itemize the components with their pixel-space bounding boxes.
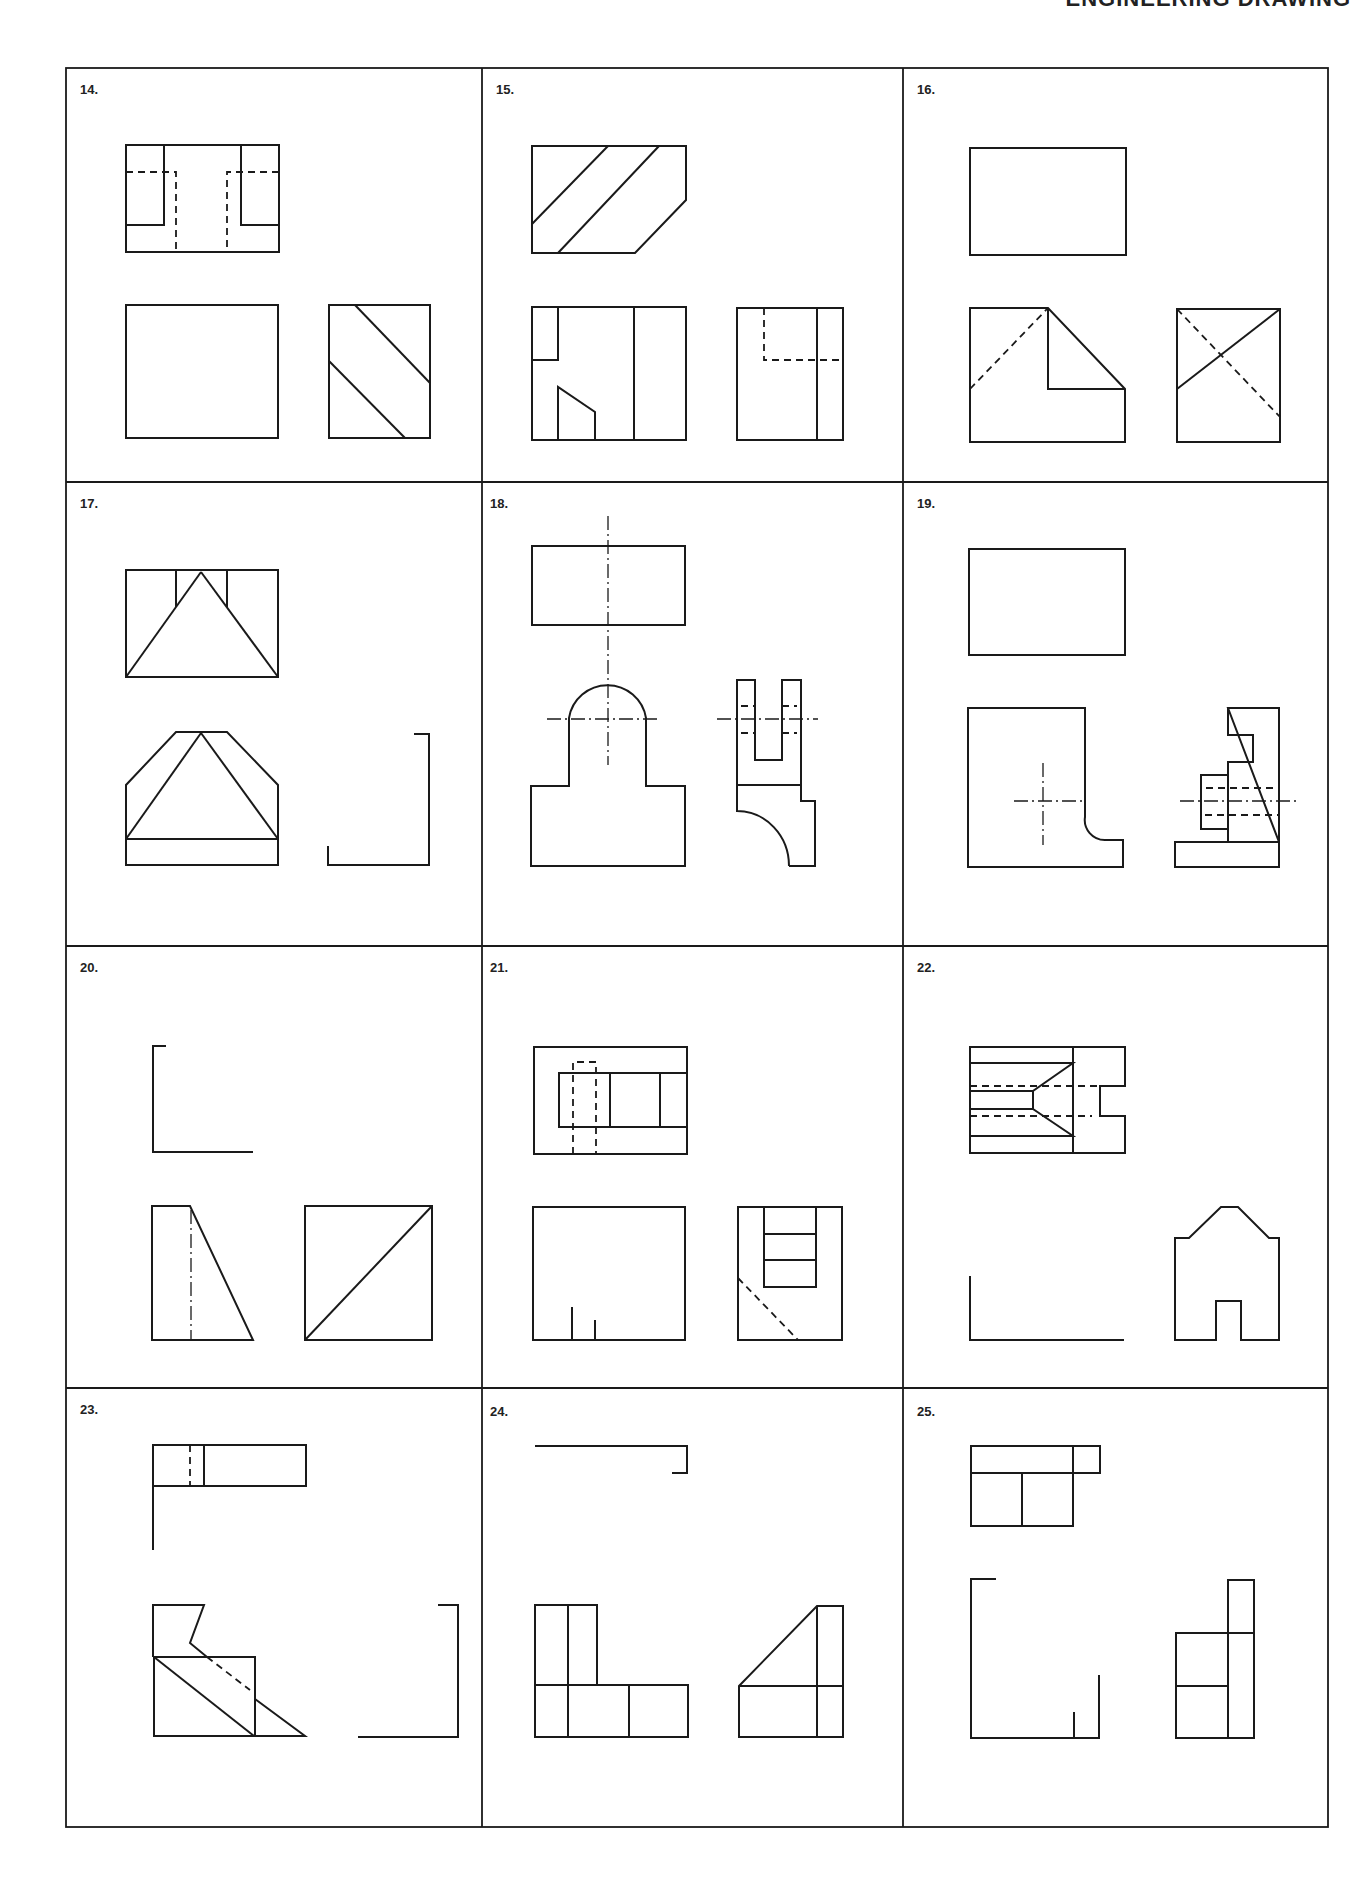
drawing-14 bbox=[126, 145, 430, 438]
drawing-25 bbox=[971, 1446, 1254, 1738]
drawing-24 bbox=[535, 1446, 843, 1737]
drawing-22 bbox=[970, 1047, 1279, 1340]
drawing-15 bbox=[532, 146, 843, 440]
drawing-17 bbox=[126, 570, 429, 865]
drawing-23 bbox=[153, 1445, 458, 1737]
drawing-20 bbox=[152, 1046, 432, 1340]
drawing-16 bbox=[970, 148, 1280, 442]
drawing-18 bbox=[531, 516, 818, 866]
drawing-19 bbox=[968, 549, 1300, 867]
grid-frame bbox=[66, 68, 1328, 1827]
drawing-21 bbox=[533, 1047, 842, 1340]
drawing-canvas bbox=[0, 0, 1361, 1893]
